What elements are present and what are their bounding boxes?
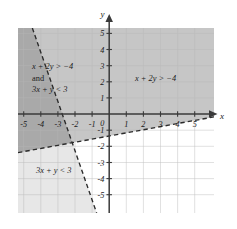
annotation-overlap-line1: x + 2y > −4 bbox=[31, 62, 73, 71]
y-tick-label: 3 bbox=[99, 62, 104, 71]
x-tick-label: 1 bbox=[124, 120, 128, 129]
x-tick-label: -2 bbox=[72, 120, 79, 129]
y-tick-label: -2 bbox=[98, 142, 105, 151]
graph-canvas: -5 -4 -3 -2 -1 1 2 3 4 5 5 4 3 2 1 -1 -2… bbox=[0, 0, 237, 229]
y-tick-label: -4 bbox=[98, 175, 105, 184]
x-tick-label: -3 bbox=[54, 120, 61, 129]
x-tick-label: 5 bbox=[193, 120, 197, 129]
x-axis-name: x bbox=[219, 111, 224, 121]
annotation-overlap-line3: 3x + y < 3 bbox=[31, 85, 68, 94]
y-tick-label: 5 bbox=[100, 29, 104, 38]
y-tick-label: 4 bbox=[100, 46, 104, 55]
y-tick-label: -5 bbox=[98, 191, 105, 200]
inequality-graph-figure: -5 -4 -3 -2 -1 1 2 3 4 5 5 4 3 2 1 -1 -2… bbox=[0, 0, 237, 229]
annotation-right-region: x + 2y > −4 bbox=[134, 74, 176, 83]
x-tick-label: -1 bbox=[89, 120, 96, 129]
x-tick-label: 4 bbox=[176, 120, 180, 129]
y-tick-label: -3 bbox=[98, 159, 105, 168]
origin-label: 0 bbox=[100, 119, 104, 128]
y-axis-arrow bbox=[105, 14, 113, 22]
annotation-bottom-region: 3x + y < 3 bbox=[35, 166, 72, 175]
y-tick-label: 1 bbox=[100, 94, 104, 103]
x-tick-label: -5 bbox=[20, 120, 27, 129]
y-tick-label: 2 bbox=[100, 78, 104, 87]
x-tick-label: 2 bbox=[141, 120, 145, 129]
y-axis-name: y bbox=[100, 9, 105, 19]
annotation-overlap-line2: and bbox=[32, 74, 45, 83]
x-tick-label: -4 bbox=[37, 120, 44, 129]
x-tick-label: 3 bbox=[157, 120, 162, 129]
